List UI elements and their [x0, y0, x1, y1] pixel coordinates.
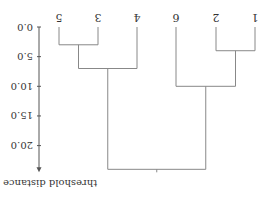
threshold-axis: 0.05.010.015.020.0threshold distance: [3, 22, 97, 190]
leaf-label: 2: [213, 11, 220, 24]
axis-tick-label: 0.0: [17, 22, 33, 33]
axis-tick-label: 5.0: [17, 51, 33, 62]
leaf-label: 5: [56, 11, 63, 24]
axis-tick-label: 20.0: [11, 140, 33, 151]
dendrogram-links: [59, 27, 255, 172]
dendrogram-chart: 0.05.010.015.020.0threshold distance 534…: [0, 0, 265, 201]
leaf-label: 1: [252, 11, 259, 24]
axis-title: threshold distance: [3, 178, 97, 189]
dendrogram-link: [79, 27, 138, 69]
leaf-labels: 534621: [56, 11, 259, 24]
axis-tick-label: 15.0: [11, 110, 33, 121]
dendrogram-link: [176, 27, 236, 86]
dendrogram-figure: 0.05.010.015.020.0threshold distance 534…: [0, 0, 265, 201]
leaf-label: 6: [173, 11, 180, 24]
dendrogram-link: [59, 27, 98, 45]
leaf-label: 4: [134, 11, 141, 24]
axis-tick-label: 10.0: [11, 81, 33, 92]
leaf-label: 3: [95, 11, 102, 24]
dendrogram-link: [216, 27, 255, 51]
dendrogram-link: [108, 69, 206, 170]
arrow-up-icon: [37, 167, 42, 172]
